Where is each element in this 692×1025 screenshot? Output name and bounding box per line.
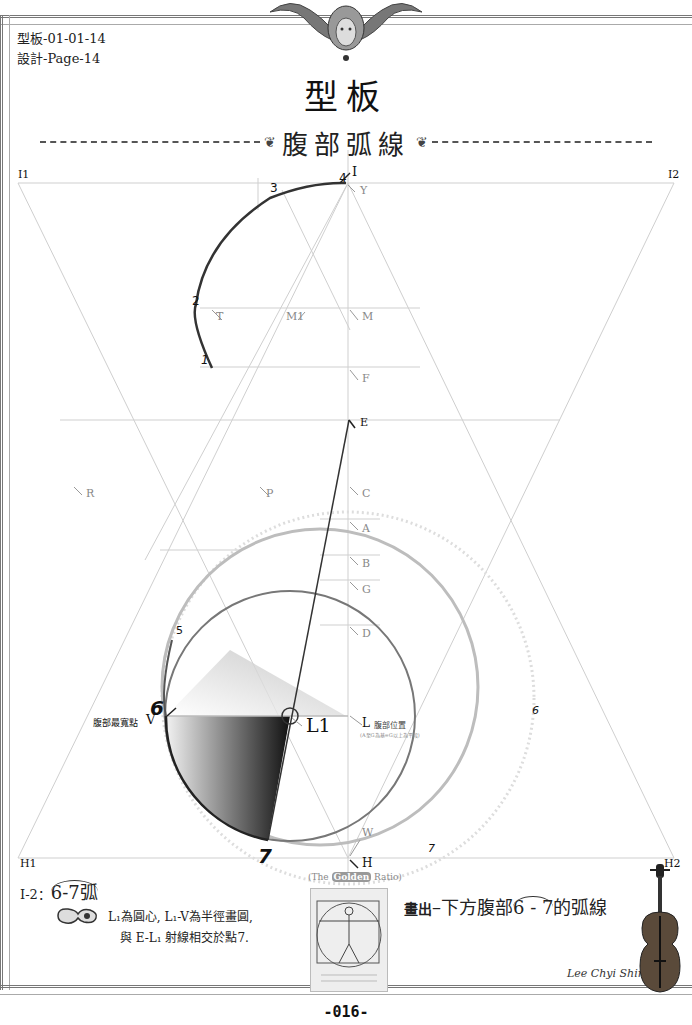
violin-image: [628, 862, 692, 996]
point-label-i1: I1: [18, 168, 29, 181]
outer-circle-label-6: 6: [532, 704, 539, 717]
curve-point-1: 1: [201, 353, 209, 367]
page-number: -016-: [0, 1003, 692, 1021]
point-label-h1: H1: [20, 857, 37, 870]
step-arc: 6-7弧: [51, 880, 98, 903]
curve-point-7: 7: [258, 844, 272, 868]
curve-point-6: 6: [150, 696, 164, 720]
curve-point-5: 5: [176, 624, 183, 637]
curve-point-4: 4: [339, 171, 347, 185]
golden-ratio-caption: (The Golden Ratio): [308, 872, 402, 882]
step-label: I-2：: [20, 887, 51, 902]
point-label-d: D: [362, 627, 371, 640]
outer-circle-label-7: 7: [428, 842, 435, 855]
curve-point-3: 3: [270, 181, 278, 195]
point-label-r: R: [86, 487, 94, 500]
vitruvian-man-image: [310, 888, 388, 992]
construction-lines: [18, 150, 674, 880]
point-label-m: M: [362, 310, 373, 323]
point-label-w: W: [362, 826, 373, 839]
point-label-f: F: [362, 372, 370, 385]
point-label-m1: M1: [286, 310, 304, 323]
hand-pointer-icon: [56, 906, 100, 926]
point-label-l1: L1: [306, 714, 331, 736]
instruction-line-2: 與 E-L₁ 射線相交於點7.: [120, 928, 249, 945]
draw-prefix: 畫出: [404, 901, 432, 917]
draw-arc: 6 - 7: [513, 896, 553, 918]
draw-suffix: 的弧線: [553, 897, 607, 918]
point-label-p: P: [266, 487, 273, 500]
upper-shade: [166, 650, 346, 716]
point-label-a: A: [362, 522, 370, 535]
point-label-g: G: [362, 583, 371, 596]
instruction-line-1: L₁為圓心, L₁-V為半徑畫圓,: [108, 907, 253, 924]
point-label-c: C: [362, 487, 370, 500]
belly-position-label: 腹部位置: [374, 719, 406, 730]
draw-text: 下方腹部: [441, 897, 513, 918]
point-label-h: H: [362, 856, 372, 870]
curve-point-2: 2: [192, 294, 200, 308]
widest-point-label: 腹部最寬點: [93, 716, 138, 729]
belly-position-note: (A至G為基=G以上為平段): [360, 731, 420, 738]
step-heading: I-2：6-7弧: [20, 878, 98, 904]
point-label-i: I: [352, 164, 357, 179]
point-label-l: L: [362, 716, 370, 730]
draw-instruction: 畫出–下方腹部6 - 7的弧線: [404, 893, 607, 919]
point-label-y: Y: [360, 184, 367, 197]
point-label-b: B: [362, 557, 370, 570]
point-label-e: E: [360, 416, 368, 429]
point-label-t: T: [216, 310, 223, 323]
golden-word: Golden: [332, 872, 372, 882]
point-label-i2: I2: [668, 168, 679, 181]
